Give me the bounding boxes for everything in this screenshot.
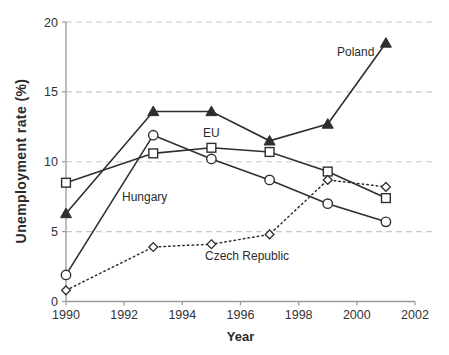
x-axis-title: Year — [66, 329, 415, 344]
data-point-eu-1997 — [265, 148, 274, 157]
series-label-eu: EU — [203, 126, 220, 140]
data-point-hungary-1999 — [323, 199, 332, 208]
series-markers-eu — [62, 143, 391, 202]
data-point-czech-republic-1993 — [149, 243, 158, 252]
data-point-eu-1990 — [62, 178, 71, 187]
data-point-hungary-1997 — [265, 175, 274, 184]
x-tick-label-1990: 1990 — [52, 308, 80, 322]
series-label-poland: Poland — [337, 45, 374, 59]
x-tick-label-2002: 2002 — [401, 308, 429, 322]
data-point-eu-2001 — [382, 194, 391, 203]
series-line-eu — [66, 148, 386, 198]
series-label-hungary: Hungary — [122, 190, 167, 204]
data-point-czech-republic-2001 — [382, 183, 391, 192]
chart-canvas: 199019921994199619982000200205101520 — [0, 0, 449, 355]
data-point-poland-2001 — [380, 38, 391, 48]
y-tick-label-10: 10 — [44, 155, 58, 169]
y-axis-title: Unemployment rate (%) — [13, 79, 29, 244]
y-tick-label-5: 5 — [51, 225, 58, 239]
data-point-eu-1995 — [207, 143, 216, 152]
series-line-czech-republic — [66, 180, 386, 290]
series-line-poland — [66, 43, 386, 213]
series-markers-czech-republic — [62, 176, 391, 295]
x-tick-label-2000: 2000 — [343, 308, 371, 322]
data-point-hungary-1990 — [61, 270, 70, 279]
unemployment-rate-chart: 199019921994199619982000200205101520 Une… — [0, 0, 449, 355]
x-tick-label-1998: 1998 — [285, 308, 313, 322]
data-point-czech-republic-1999 — [323, 176, 332, 185]
series-label-czech-republic: Czech Republic — [205, 249, 289, 263]
data-point-poland-1999 — [322, 119, 333, 129]
y-tick-label-0: 0 — [51, 295, 58, 309]
data-point-hungary-1995 — [207, 154, 216, 163]
data-point-eu-1993 — [149, 149, 158, 158]
x-tick-label-1992: 1992 — [110, 308, 138, 322]
data-point-czech-republic-1995 — [207, 240, 216, 249]
x-tick-label-1996: 1996 — [227, 308, 255, 322]
y-tick-label-15: 15 — [44, 85, 58, 99]
x-tick-label-1994: 1994 — [168, 308, 196, 322]
data-point-czech-republic-1990 — [62, 286, 71, 295]
data-point-hungary-2001 — [381, 217, 390, 226]
series-markers-poland — [61, 38, 392, 218]
y-tick-label-20: 20 — [44, 16, 58, 30]
data-point-hungary-1993 — [149, 130, 158, 139]
